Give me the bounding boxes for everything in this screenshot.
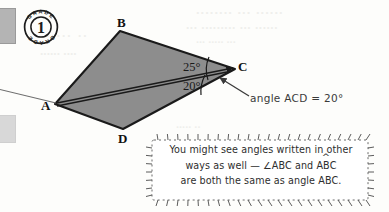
- vertex-label-a: A: [41, 98, 50, 114]
- vertex-label-c: C: [238, 59, 247, 75]
- callout-line-2: ways as well — ∠ABC and ABC: [156, 158, 366, 174]
- callout-text: You might see angles written in other wa…: [156, 142, 366, 189]
- vertex-label-b: B: [117, 15, 126, 31]
- callout-line-2-post: C: [330, 160, 337, 171]
- vertex-label-d: D: [118, 131, 127, 147]
- burst-ticks-right: [368, 147, 374, 197]
- angle-label-25: 25°: [183, 60, 201, 75]
- burst-ticks-bottom: [156, 200, 370, 206]
- callout-accented-b: B: [323, 160, 330, 171]
- burst-ticks-top: [157, 134, 370, 140]
- callout-line-3: are both the same as angle ABC.: [156, 173, 366, 189]
- callout-line-1: You might see angles written in other: [156, 142, 366, 158]
- callout-line-2-pre: ways as well — ∠ABC and A: [185, 160, 323, 171]
- page-root: ........ ... ...... ... ......... ... ..…: [0, 0, 389, 212]
- angle-label-20: 20°: [183, 79, 201, 94]
- burst-ticks-left: [146, 147, 152, 197]
- callout-box: You might see angles written in other wa…: [144, 134, 376, 206]
- annotation-angle-acd: angle ACD = 20°: [250, 92, 343, 104]
- pointer-arrow-to-angle-ACD: [220, 78, 249, 96]
